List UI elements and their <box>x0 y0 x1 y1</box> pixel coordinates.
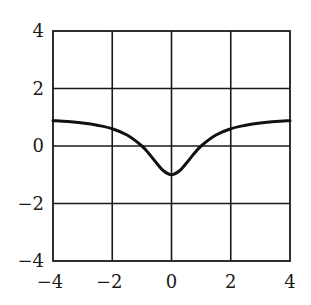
y-tick-label: 2 <box>33 78 44 99</box>
x-tick-label: 2 <box>225 271 236 292</box>
y-axis-tick-labels: −4−2024 <box>17 20 44 271</box>
y-tick-label: 4 <box>33 20 44 41</box>
y-tick-label: −4 <box>17 250 44 271</box>
x-tick-label: −2 <box>96 271 123 292</box>
line-chart: −4−2024 −4−2024 <box>0 0 311 305</box>
y-tick-label: −2 <box>17 193 44 214</box>
x-axis-tick-labels: −4−2024 <box>37 271 296 292</box>
x-tick-label: 4 <box>284 271 295 292</box>
x-tick-label: 0 <box>166 271 177 292</box>
x-tick-label: −4 <box>37 271 64 292</box>
grid-lines <box>53 31 290 261</box>
y-tick-label: 0 <box>33 135 44 156</box>
